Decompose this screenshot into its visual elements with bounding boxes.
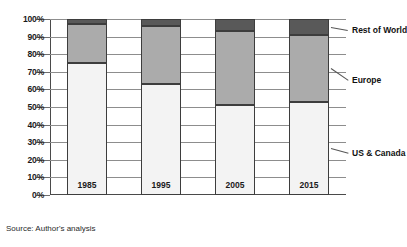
bar-segment <box>67 63 107 195</box>
bar-2005 <box>215 19 255 195</box>
y-axis-label: 40% <box>0 120 44 130</box>
source-note: Source: Author's analysis <box>6 224 96 233</box>
bar-segment <box>289 35 329 102</box>
y-axis-label: 60% <box>0 84 44 94</box>
y-axis-label: 10% <box>0 172 44 182</box>
y-axis-label: 80% <box>0 49 44 59</box>
y-axis-label: 100% <box>0 14 44 24</box>
bar-segment <box>289 19 329 35</box>
y-axis-label: 50% <box>0 102 44 112</box>
callout-label: Rest of World <box>352 25 407 35</box>
y-axis-label: 90% <box>0 32 44 42</box>
bar-segment <box>67 19 107 24</box>
bar-segment <box>141 26 181 84</box>
x-axis-label-2005: 2005 <box>200 180 270 190</box>
x-axis-label-1995: 1995 <box>126 180 196 190</box>
plot-area <box>50 19 346 195</box>
x-axis-label-1985: 1985 <box>52 180 122 190</box>
bar-2015 <box>289 19 329 195</box>
bar-segment <box>67 24 107 63</box>
callout-label: US & Canada <box>352 148 405 158</box>
bar-1995 <box>141 19 181 195</box>
bar-segment <box>141 84 181 195</box>
bar-1985 <box>67 19 107 195</box>
callout-label: Europe <box>352 75 381 85</box>
y-axis-label: 0% <box>0 190 44 200</box>
bar-segment <box>215 19 255 31</box>
y-axis-label: 30% <box>0 137 44 147</box>
y-axis-label: 70% <box>0 67 44 77</box>
x-axis-label-2015: 2015 <box>274 180 344 190</box>
bar-segment <box>141 19 181 26</box>
y-axis-label: 20% <box>0 155 44 165</box>
bar-segment <box>215 31 255 105</box>
